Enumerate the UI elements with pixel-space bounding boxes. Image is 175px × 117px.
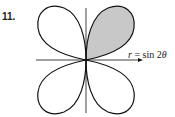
equation-body: = sin 2 bbox=[132, 49, 162, 60]
equation-label: r = sin 2θ bbox=[128, 49, 167, 60]
shaded-petal bbox=[86, 6, 134, 60]
petal-upper-left bbox=[38, 6, 86, 60]
petal-lower-right bbox=[86, 60, 134, 114]
petal-lower-left bbox=[38, 60, 86, 114]
equation-theta: θ bbox=[162, 49, 167, 60]
